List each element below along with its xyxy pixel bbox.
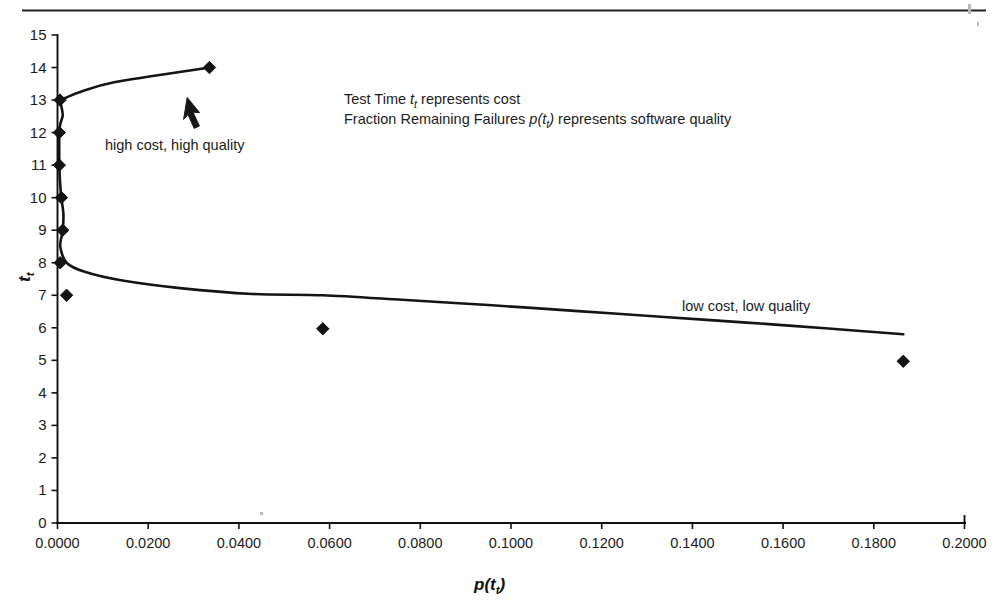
x-tick-label: 0.0000 [35,535,79,551]
y-tick-label: 4 [38,384,46,401]
y-tick-label: 1 [38,481,46,498]
scan-speck [968,4,971,14]
data-point-marker [317,323,329,335]
y-tick-label: 12 [30,124,47,141]
x-tick-label: 0.2000 [942,535,986,551]
series-markers [53,61,909,367]
callout-low-cost-low-quality: low cost, low quality [682,298,811,314]
data-point-marker [53,126,65,138]
y-tick-label: 8 [38,254,46,271]
x-tick-label: 0.1600 [761,535,805,551]
y-tick-label: 10 [30,189,47,206]
x-axis-tick-labels: 0.00000.02000.04000.06000.08000.10000.12… [35,535,986,551]
line-chart: 0123456789101112131415 0.00000.02000.040… [0,0,1001,607]
callout-high-cost-high-quality: high cost, high quality [105,137,245,153]
x-tick-label: 0.0800 [398,535,442,551]
chart-figure: 0123456789101112131415 0.00000.02000.040… [0,0,1001,607]
y-tick-label: 5 [38,351,46,368]
x-axis-title: p(tt) [473,575,506,596]
scan-speck [977,22,979,26]
x-tick-label: 0.1200 [580,535,624,551]
y-tick-label: 3 [38,416,46,433]
data-point-marker [53,159,65,171]
x-tick-label: 0.1400 [670,535,714,551]
callout-arrow-icon [184,98,200,129]
scan-speck [260,512,263,515]
x-tick-label: 0.1000 [489,535,533,551]
data-point-marker [897,355,909,367]
x-tick-label: 0.0200 [126,535,170,551]
y-tick-label: 2 [38,449,46,466]
x-tick-label: 0.0600 [307,535,351,551]
y-tick-label: 7 [38,286,46,303]
y-tick-label: 9 [38,221,46,238]
y-axis-title: tt [15,271,36,282]
note-line-1: Test Time tt represents cost [344,91,520,110]
y-tick-label: 15 [30,26,47,43]
y-tick-label: 13 [30,91,47,108]
data-point-marker [203,61,215,73]
note-line-2: Fraction Remaining Failures p(tt) repres… [344,111,732,130]
x-tick-label: 0.0400 [217,535,261,551]
data-point-marker [60,289,72,301]
data-point-marker [54,94,66,106]
x-tick-label: 0.1800 [852,535,896,551]
y-tick-label: 6 [38,319,46,336]
y-tick-label: 11 [31,156,47,173]
y-tick-label: 14 [30,59,47,76]
y-tick-label: 0 [38,514,46,531]
